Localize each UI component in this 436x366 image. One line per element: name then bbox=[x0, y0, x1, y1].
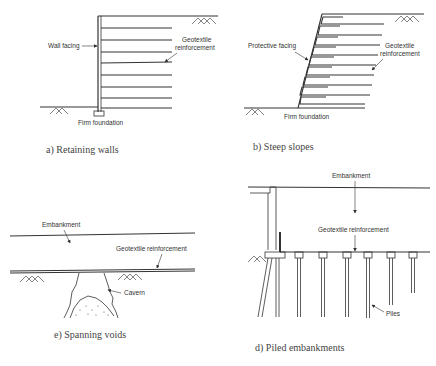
label-protective-facing: Protective facing bbox=[248, 42, 296, 50]
ground-hatch-icon bbox=[192, 18, 216, 24]
panel-steep-slopes: Protective facing Geotextile reinforceme… bbox=[244, 14, 424, 153]
label-embankment-d: Embankment bbox=[332, 172, 370, 179]
label-geotextile-c: Geotextile reinforcement bbox=[116, 245, 187, 252]
label-geotextile-b1: Geotextile bbox=[385, 42, 415, 49]
label-geotextile-b2: reinforcement bbox=[380, 50, 420, 57]
panel-spanning-voids: Embankment Geotextile reinforcement Cave… bbox=[10, 221, 195, 341]
caption-b: b) Steep slopes bbox=[253, 141, 314, 153]
label-cavern: Cavern bbox=[124, 289, 145, 296]
label-firm-foundation-b: Firm foundation bbox=[284, 113, 330, 120]
caption-d: d) Piled embankments bbox=[255, 342, 345, 354]
geotextile-applications-diagram: Wall facing Geotextile reinforcement Fir… bbox=[0, 0, 436, 366]
label-firm-foundation-a: Firm foundation bbox=[78, 119, 124, 126]
foundation-block bbox=[94, 111, 104, 116]
geotextile-layers-b bbox=[300, 17, 384, 104]
caption-c: e) Spanning voids bbox=[54, 329, 126, 341]
label-embankment-c: Embankment bbox=[42, 221, 80, 228]
label-piles: Piles bbox=[386, 310, 401, 317]
label-geotextile-a1: Geotextile bbox=[182, 36, 212, 43]
panel-retaining-walls: Wall facing Geotextile reinforcement Fir… bbox=[40, 16, 218, 156]
label-geotextile-a2: reinforcement bbox=[175, 44, 215, 51]
piles bbox=[295, 252, 417, 318]
panel-piled-embankments: Embankment Geotextile reinforcement bbox=[248, 172, 430, 354]
caption-a: a) Retaining walls bbox=[46, 144, 119, 156]
label-wall-facing: Wall facing bbox=[48, 42, 80, 50]
label-geotextile-d: Geotextile reinforcement bbox=[318, 226, 389, 233]
geotextile-layers bbox=[101, 28, 172, 108]
pile-cap-abutment bbox=[265, 252, 285, 258]
rubble-dots bbox=[76, 306, 109, 316]
